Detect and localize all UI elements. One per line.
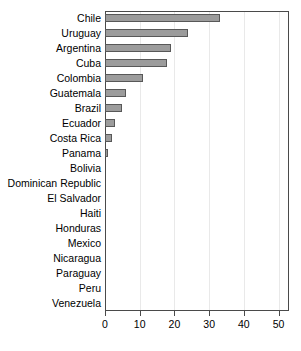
bar-row bbox=[105, 116, 289, 131]
bar-costa-rica bbox=[105, 134, 112, 142]
xtick-30 bbox=[209, 311, 210, 316]
bar-uruguay bbox=[105, 29, 188, 37]
bar-row bbox=[105, 191, 289, 206]
category-label-costa-rica: Costa Rica bbox=[0, 131, 101, 146]
category-label-uruguay: Uruguay bbox=[0, 26, 101, 41]
xtick-0 bbox=[105, 311, 106, 316]
bar-row bbox=[105, 86, 289, 101]
category-label-peru: Peru bbox=[0, 281, 101, 296]
category-label-panama: Panama bbox=[0, 146, 101, 161]
category-label-chile: Chile bbox=[0, 11, 101, 26]
bar-row bbox=[105, 281, 289, 296]
bar-chile bbox=[105, 14, 220, 22]
bar-row bbox=[105, 206, 289, 221]
category-label-bolivia: Bolivia bbox=[0, 161, 101, 176]
category-label-haiti: Haiti bbox=[0, 206, 101, 221]
category-label-ecuador: Ecuador bbox=[0, 116, 101, 131]
category-label-el-salvador: El Salvador bbox=[0, 191, 101, 206]
bar-row bbox=[105, 71, 289, 86]
bar-row bbox=[105, 296, 289, 311]
bar-panama bbox=[105, 149, 108, 157]
bar-row bbox=[105, 101, 289, 116]
bar-argentina bbox=[105, 44, 171, 52]
xticklabel-20: 20 bbox=[159, 318, 189, 330]
xticklabel-50: 50 bbox=[264, 318, 294, 330]
xtick-40 bbox=[244, 311, 245, 316]
category-label-nicaragua: Nicaragua bbox=[0, 251, 101, 266]
category-label-venezuela: Venezuela bbox=[0, 296, 101, 311]
bar-ecuador bbox=[105, 119, 115, 127]
category-label-paraguay: Paraguay bbox=[0, 266, 101, 281]
category-label-guatemala: Guatemala bbox=[0, 86, 101, 101]
xtick-50 bbox=[279, 311, 280, 316]
category-label-argentina: Argentina bbox=[0, 41, 101, 56]
bar-row bbox=[105, 161, 289, 176]
bar-row bbox=[105, 41, 289, 56]
bar-brazil bbox=[105, 104, 122, 112]
bar-row bbox=[105, 11, 289, 26]
category-label-dominican-republic: Dominican Republic bbox=[0, 176, 101, 191]
bar-row bbox=[105, 146, 289, 161]
category-label-cuba: Cuba bbox=[0, 56, 101, 71]
xticklabel-40: 40 bbox=[229, 318, 259, 330]
category-label-mexico: Mexico bbox=[0, 236, 101, 251]
xticklabel-10: 10 bbox=[125, 318, 155, 330]
xtick-20 bbox=[174, 311, 175, 316]
bars-layer bbox=[105, 11, 289, 311]
bar-row bbox=[105, 131, 289, 146]
bar-colombia bbox=[105, 74, 143, 82]
category-axis-labels: ChileUruguayArgentinaCubaColombiaGuatema… bbox=[0, 11, 101, 311]
bar-row bbox=[105, 56, 289, 71]
bar-row bbox=[105, 221, 289, 236]
category-label-colombia: Colombia bbox=[0, 71, 101, 86]
category-label-honduras: Honduras bbox=[0, 221, 101, 236]
xticklabel-0: 0 bbox=[90, 318, 120, 330]
bar-row bbox=[105, 236, 289, 251]
bar-row bbox=[105, 251, 289, 266]
bar-row bbox=[105, 176, 289, 191]
bar-chart-figure: ChileUruguayArgentinaCubaColombiaGuatema… bbox=[0, 0, 301, 351]
bar-row bbox=[105, 26, 289, 41]
category-label-brazil: Brazil bbox=[0, 101, 101, 116]
bar-cuba bbox=[105, 59, 167, 67]
bar-guatemala bbox=[105, 89, 126, 97]
xtick-10 bbox=[140, 311, 141, 316]
value-axis: 01020304050 bbox=[105, 311, 289, 341]
xticklabel-30: 30 bbox=[194, 318, 224, 330]
bar-row bbox=[105, 266, 289, 281]
